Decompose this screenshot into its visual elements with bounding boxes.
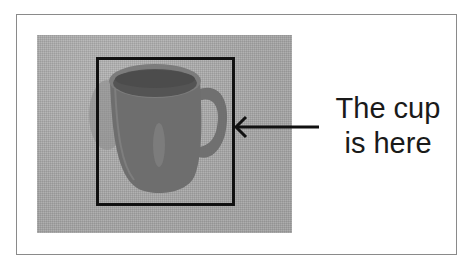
annotation-line-2: is here bbox=[326, 126, 450, 161]
arrow-left-icon bbox=[232, 114, 322, 142]
annotation-line-1: The cup bbox=[326, 91, 450, 126]
bounding-box bbox=[96, 57, 235, 206]
annotation-label: The cup is here bbox=[326, 91, 450, 161]
